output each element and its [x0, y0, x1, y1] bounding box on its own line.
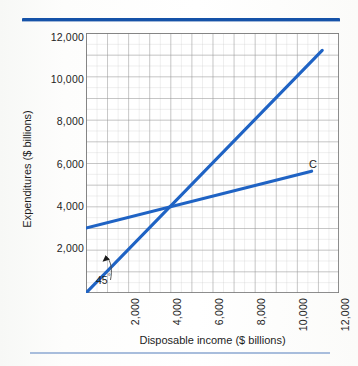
angle-annotation: 45°: [96, 272, 111, 286]
angle-annotation-value: 45: [96, 274, 108, 286]
degree-symbol-icon: °: [108, 272, 111, 281]
x-tick-label: 2,000: [129, 298, 141, 325]
x-tick-label: 12,000: [339, 298, 351, 331]
x-tick-label: 8,000: [255, 298, 267, 325]
plot-area: [86, 33, 339, 293]
x-axis-title: Disposable income ($ billions): [86, 334, 339, 346]
x-tick-label: 6,000: [213, 298, 225, 325]
series-label-c: C: [309, 158, 317, 170]
x-tick-label: 4,000: [171, 298, 183, 325]
chart-svg: [86, 33, 339, 293]
x-tick-label: 10,000: [297, 298, 309, 331]
figure-container: Expenditures ($ billions) 2,000 4,000 6,…: [0, 0, 358, 366]
